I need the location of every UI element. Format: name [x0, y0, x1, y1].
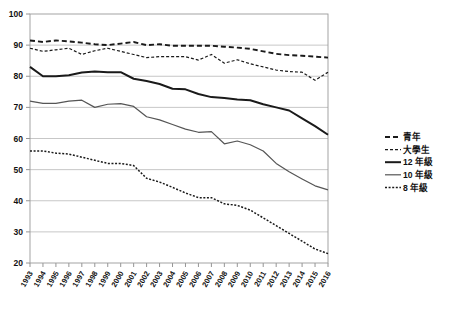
x-tick-label: 2010	[239, 270, 255, 289]
y-axis-tick-labels: 2030405060708090100	[9, 9, 23, 268]
y-tick-label: 60	[14, 134, 24, 144]
chart-legend: 青年大學生12 年級10 年級8 年級	[385, 131, 433, 192]
y-tick-label: 80	[14, 71, 24, 81]
x-axis-ticks	[30, 263, 328, 267]
line-chart-svg: 2030405060708090100 19931994199519961997…	[0, 0, 458, 309]
legend-label-1: 大學生	[403, 144, 430, 155]
x-tick-label: 2016	[317, 270, 333, 289]
y-tick-label: 20	[14, 258, 24, 268]
legend-label-0: 青年	[403, 131, 421, 142]
y-tick-label: 40	[14, 196, 24, 206]
y-tick-label: 50	[14, 165, 24, 175]
x-axis-tick-labels: 1993199419951996199719981999200020012002…	[19, 269, 333, 289]
legend-label-3: 10 年級	[403, 169, 433, 180]
y-tick-label: 100	[9, 9, 23, 19]
y-tick-label: 70	[14, 102, 24, 112]
legend-label-4: 8 年級	[403, 182, 428, 193]
line-chart-container: 2030405060708090100 19931994199519961997…	[0, 0, 458, 309]
y-tick-label: 30	[14, 227, 24, 237]
y-tick-label: 90	[14, 40, 24, 50]
legend-label-2: 12 年級	[403, 156, 433, 167]
